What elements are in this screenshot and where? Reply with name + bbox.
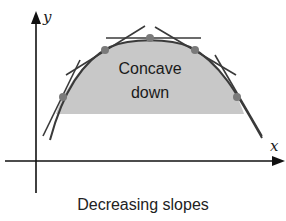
y-axis-label: y [42,8,52,26]
region-label-line2: down [131,84,169,101]
tangent-point-5 [233,93,241,101]
figure-caption: Decreasing slopes [0,196,286,214]
tangent-point-2 [101,46,109,54]
tangent-point-3 [146,34,154,42]
x-axis-label: x [270,137,279,155]
tangent-point-1 [59,93,67,101]
y-axis-arrow-icon [31,11,41,24]
x-axis-arrow-icon [272,156,285,166]
concavity-diagram: y x Concave down [0,0,286,221]
region-label-line1: Concave [118,60,181,77]
tangent-point-4 [191,46,199,54]
concave-region-fill [56,40,244,114]
